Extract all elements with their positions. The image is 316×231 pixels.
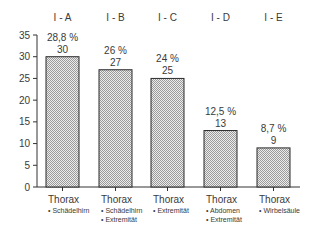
group-label: I - E bbox=[264, 12, 283, 23]
percentage-label: 28,8 % bbox=[47, 32, 78, 43]
category-main-label: Thorax bbox=[101, 194, 132, 205]
category-main-label: Thorax bbox=[206, 194, 237, 205]
y-tick-label: 25 bbox=[19, 73, 31, 84]
value-label: 30 bbox=[57, 44, 69, 55]
y-tick-label: 15 bbox=[19, 116, 31, 127]
category-sub-label: • Schädelhirn bbox=[48, 207, 89, 214]
y-tick-label: 20 bbox=[19, 95, 31, 106]
category-sub-label: • Extremität bbox=[206, 216, 242, 223]
group-label: I - C bbox=[158, 12, 177, 23]
value-label: 27 bbox=[110, 57, 122, 68]
value-label: 25 bbox=[162, 65, 174, 76]
group-label: I - D bbox=[211, 12, 230, 23]
y-tick-label: 0 bbox=[24, 182, 30, 193]
category-main-label: Thorax bbox=[48, 194, 79, 205]
percentage-label: 8,7 % bbox=[261, 123, 287, 134]
value-label: 9 bbox=[271, 135, 277, 146]
y-tick-label: 35 bbox=[19, 30, 31, 41]
y-tick-label: 10 bbox=[19, 138, 31, 149]
group-label: I - B bbox=[106, 12, 125, 23]
bar-chart: 05101520253035 I - A28,8 %30Thorax• Schä… bbox=[0, 0, 316, 231]
bar-i-a bbox=[46, 57, 79, 187]
y-tick-label: 5 bbox=[24, 160, 30, 171]
percentage-label: 24 % bbox=[156, 53, 179, 64]
value-label: 13 bbox=[215, 118, 227, 129]
bar-i-c bbox=[151, 78, 184, 187]
group-label: I - A bbox=[54, 12, 72, 23]
category-sub-label: • Extremität bbox=[101, 216, 137, 223]
percentage-label: 12,5 % bbox=[205, 106, 236, 117]
category-sub-label: • Schädelhirn bbox=[101, 207, 142, 214]
category-main-label: Thorax bbox=[259, 194, 290, 205]
percentage-label: 26 % bbox=[104, 45, 127, 56]
bar-i-e bbox=[257, 148, 290, 187]
category-main-label: Thorax bbox=[153, 194, 184, 205]
bar-i-d bbox=[204, 131, 237, 187]
bar-i-b bbox=[99, 70, 132, 187]
category-sub-label: • Wirbelsäule bbox=[259, 207, 300, 214]
category-sub-label: • Extremität bbox=[153, 207, 189, 214]
category-sub-label: • Abdomen bbox=[206, 207, 240, 214]
y-axis: 05101520253035 bbox=[19, 30, 37, 193]
x-axis bbox=[37, 187, 300, 191]
y-tick-label: 30 bbox=[19, 51, 31, 62]
